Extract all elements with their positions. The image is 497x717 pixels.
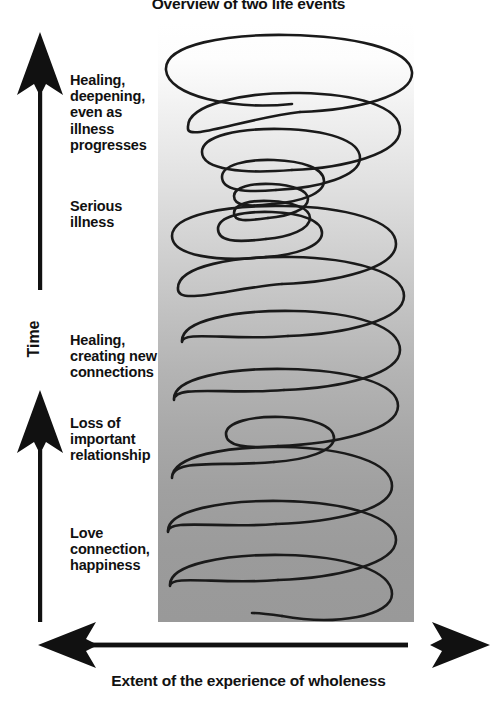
label-serious-illness: Serious illness [70, 198, 122, 230]
arrow-up-icon [17, 32, 63, 96]
arrow-up-icon [17, 390, 63, 454]
label-loss: Loss of important relationship [70, 415, 150, 464]
label-healing-connections: Healing, creating new connections [70, 332, 157, 381]
label-healing-deepening: Healing, deepening, even as illness prog… [70, 72, 147, 153]
gradient-panel [158, 22, 414, 622]
arrow-left-right-icon [38, 622, 490, 668]
axis-label-time: Time [25, 299, 43, 379]
page-title: Overview of two life events [0, 0, 497, 13]
life-events-diagram: Overview of two life events [0, 0, 497, 717]
label-love: Love connection, happiness [70, 525, 150, 574]
axis-label-extent: Extent of the experience of wholeness [0, 672, 497, 690]
